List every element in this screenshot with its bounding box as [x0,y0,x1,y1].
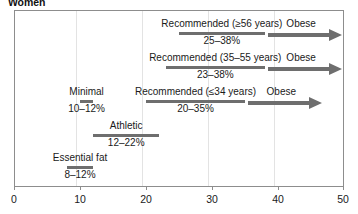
group-label-recommended-34minus: Recommended (≤34 years) [135,86,256,97]
tick-mark-20 [146,186,147,190]
group-label-recommended-35-55: Recommended (35–55 years) [149,52,281,63]
tick-label-0: 0 [11,193,17,205]
tick-label-40: 40 [272,193,284,205]
tick-label-20: 20 [140,193,152,205]
obese-arrow-icon-row1 [265,28,345,42]
range-value-recommended-35-55: 23–38% [197,69,234,80]
range-value-athletic: 12–22% [108,137,145,148]
chart-title: Women [8,0,45,8]
body-fat-chart-figure: Women Recommended (≥56 years) 25–38% Obe… [0,0,358,214]
obese-arrow-icon-row2 [265,62,345,76]
x-axis: 0 10 20 30 40 50 [14,186,344,214]
tick-mark-10 [80,186,81,190]
tick-mark-50 [343,186,344,190]
range-value-essential-fat: 8–12% [64,169,95,180]
tick-mark-40 [278,186,279,190]
gridline-20 [142,11,143,186]
range-value-minimal: 10–12% [68,103,105,114]
group-label-minimal: Minimal [69,86,103,97]
range-value-recommended-34minus: 20–35% [177,103,214,114]
obese-arrow-icon-row3 [245,96,325,110]
range-value-recommended-56plus: 25–38% [204,35,241,46]
group-label-athletic: Athletic [110,120,143,131]
tick-label-30: 30 [206,193,218,205]
tick-label-50: 50 [337,193,349,205]
tick-label-10: 10 [74,193,86,205]
tick-mark-0 [14,186,15,190]
group-label-essential-fat: Essential fat [53,152,107,163]
tick-mark-30 [212,186,213,190]
